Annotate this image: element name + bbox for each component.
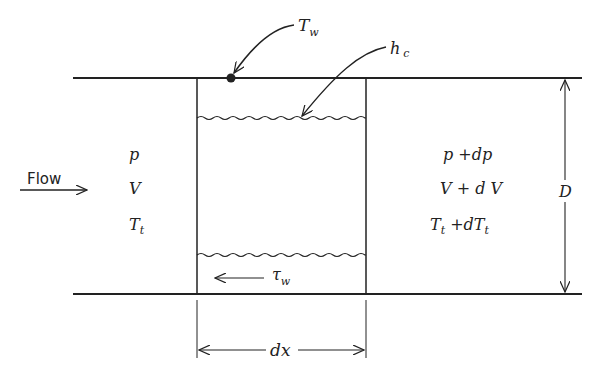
- flow-label: Flow: [27, 170, 61, 188]
- wall-temperature-arrow: [234, 25, 294, 73]
- inlet-velocity: V: [129, 179, 142, 198]
- outlet-velocity: V + d V: [440, 179, 503, 198]
- wall-shear-label: τw: [272, 265, 291, 288]
- heat-transfer-arrow: [302, 47, 386, 116]
- inlet-pressure: p: [129, 145, 139, 164]
- lower-wavy-boundary: [197, 254, 366, 257]
- upper-wavy-boundary: [197, 117, 366, 120]
- diameter-label: D: [558, 182, 572, 201]
- outlet-total-temperature: Tt +dTt: [430, 215, 490, 237]
- dx-label: dx: [270, 340, 291, 360]
- wall-temperature-label: Tw: [298, 15, 319, 39]
- wall-temperature-point: [227, 74, 236, 83]
- inlet-total-temperature: Tt: [129, 215, 145, 237]
- heat-transfer-coefficient-label: hc: [390, 39, 409, 60]
- flow-control-volume-diagram: Tw hc Flow p V Tt p +dp V + d V Tt +dTt …: [0, 0, 593, 374]
- outlet-pressure: p +dp: [443, 145, 492, 164]
